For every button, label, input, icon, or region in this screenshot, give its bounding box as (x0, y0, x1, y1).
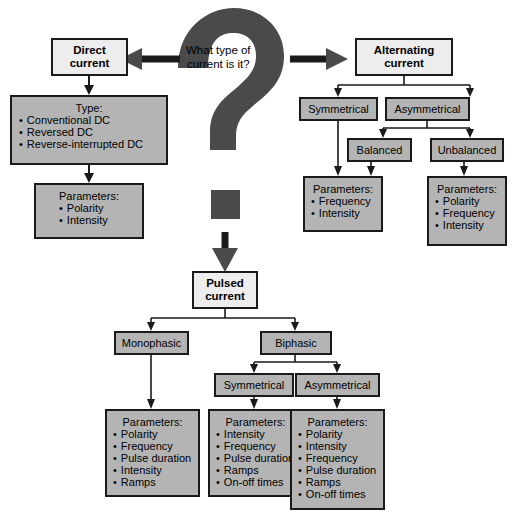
list-item: Pulse duration (216, 452, 295, 464)
parameters-heading: Parameters: (435, 183, 499, 195)
list-item: On-off times (298, 488, 377, 500)
list-item: Frequency (216, 440, 295, 452)
list-item: Frequency (435, 207, 499, 219)
list-item: On-off times (216, 476, 295, 488)
list-item: Frequency (298, 452, 377, 464)
question-mark-icon (170, 4, 290, 184)
node-pulsed-current[interactable]: Pulsed current (192, 271, 258, 309)
list-item: Conventional DC (19, 114, 159, 126)
parameters-heading: Parameters: (43, 190, 135, 202)
node-pulsed-parameters-asymmetrical[interactable]: Parameters: Polarity Intensity Frequency… (290, 409, 385, 510)
parameters-heading: Parameters: (298, 416, 377, 428)
node-pulsed-parameters-symmetrical[interactable]: Parameters: Intensity Frequency Pulse du… (208, 409, 303, 497)
list-item: Polarity (113, 428, 192, 440)
list-item: Reversed DC (19, 126, 159, 138)
list-item: Ramps (113, 476, 192, 488)
list-item: Intensity (435, 219, 499, 231)
type-heading: Type: (19, 102, 159, 114)
node-ac-unbalanced[interactable]: Unbalanced (430, 138, 504, 162)
list-item: Polarity (59, 202, 135, 214)
parameters-list: Polarity Intensity Frequency Pulse durat… (298, 428, 377, 500)
node-pulsed-asymmetrical[interactable]: Asymmetrical (295, 373, 380, 397)
list-item: Frequency (113, 440, 192, 452)
list-item: Reverse-interrupted DC (19, 138, 159, 150)
node-ac-parameters-left[interactable]: Parameters: Frequency Intensity (303, 176, 383, 232)
node-direct-current[interactable]: Direct current (51, 38, 128, 76)
list-item: Ramps (298, 476, 377, 488)
list-item: Polarity (435, 195, 499, 207)
list-item: Polarity (298, 428, 377, 440)
parameters-list: Polarity Intensity (43, 202, 135, 226)
node-pulsed-monophasic[interactable]: Monophasic (114, 331, 189, 355)
parameters-list: Polarity Frequency Pulse duration Intens… (113, 428, 192, 488)
node-direct-parameters[interactable]: Parameters: Polarity Intensity (34, 183, 144, 239)
node-ac-symmetrical[interactable]: Symmetrical (299, 97, 378, 121)
list-item: Pulse duration (298, 464, 377, 476)
list-item: Pulse duration (113, 452, 192, 464)
node-pulsed-parameters-monophasic[interactable]: Parameters: Polarity Frequency Pulse dur… (105, 409, 200, 497)
list-item: Intensity (311, 207, 375, 219)
parameters-list: Frequency Intensity (311, 195, 375, 219)
list-item: Intensity (113, 464, 192, 476)
parameters-heading: Parameters: (113, 416, 192, 428)
question-text: What type of current is it? (186, 44, 251, 72)
flowchart-canvas: What type of current is it? (0, 0, 514, 512)
parameters-list: Intensity Frequency Pulse duration Ramps… (216, 428, 295, 488)
list-item: Intensity (216, 428, 295, 440)
list-item: Frequency (311, 195, 375, 207)
node-alternating-current[interactable]: Alternating current (355, 38, 453, 76)
list-item: Intensity (298, 440, 377, 452)
node-direct-type[interactable]: Type: Conventional DC Reversed DC Revers… (10, 95, 168, 165)
parameters-heading: Parameters: (311, 183, 375, 195)
parameters-heading: Parameters: (216, 416, 295, 428)
list-item: Intensity (59, 214, 135, 226)
list-item: Ramps (216, 464, 295, 476)
node-ac-parameters-right[interactable]: Parameters: Polarity Frequency Intensity (427, 176, 507, 246)
node-pulsed-biphasic[interactable]: Biphasic (260, 331, 332, 355)
node-ac-balanced[interactable]: Balanced (347, 138, 412, 162)
node-pulsed-symmetrical[interactable]: Symmetrical (214, 373, 294, 397)
node-ac-asymmetrical[interactable]: Asymmetrical (385, 97, 470, 121)
question-mark-dot (211, 190, 240, 219)
type-list: Conventional DC Reversed DC Reverse-inte… (19, 114, 159, 150)
parameters-list: Polarity Frequency Intensity (435, 195, 499, 231)
